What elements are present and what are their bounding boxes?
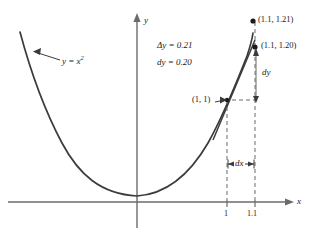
y-axis-label: y (144, 16, 148, 25)
x-tick-label-1p1: 1.1 (247, 210, 257, 218)
curve-label-arrowhead (33, 48, 41, 55)
tangent-line (213, 40, 255, 140)
figure-canvas (0, 0, 317, 235)
dx-bracket-label: dx (234, 159, 245, 168)
delta-y-annotation: Δy = 0.21 (157, 41, 193, 50)
curve-equation-exponent: 2 (81, 54, 84, 61)
point-label-tangent-endpoint: (1.1, 1.20) (261, 41, 296, 50)
x-axis-label: x (297, 197, 301, 206)
x-tick-label-1: 1 (224, 210, 228, 218)
dot-tangent-endpoint (252, 44, 257, 49)
point-label-tangency: (1, 1) (192, 95, 210, 104)
dy-bracket-label: dy (262, 68, 271, 77)
curve-equation-base: y = x (62, 56, 81, 66)
y-axis-arrowhead (133, 13, 140, 22)
dy-value-annotation: dy = 0.20 (157, 58, 192, 67)
x-tick-group (227, 200, 255, 207)
curve-equation-label: y = x2 (62, 55, 84, 66)
figure-differentials-parabola: y x 1 1.1 y = x2 Δy = 0.21 dy = 0.20 (1.… (0, 0, 317, 235)
tangent-line-group (213, 40, 255, 140)
x-axis-arrowhead (285, 198, 294, 205)
data-point-dots-group (225, 18, 258, 102)
dot-curve-endpoint (250, 18, 255, 23)
tangency-label-arrowhead (220, 97, 227, 104)
point-label-curve-endpoint: (1.1, 1.21) (258, 15, 293, 24)
dx-arrowhead-right (248, 161, 254, 166)
dy-measure-group (253, 48, 259, 103)
